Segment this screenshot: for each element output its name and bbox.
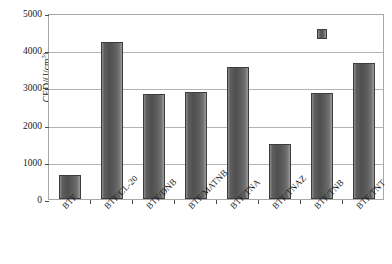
outlier-marker-icon: [317, 29, 327, 39]
y-axis-tick-label: 3000: [2, 83, 42, 93]
y-axis-tick-mark: [45, 52, 49, 53]
x-axis-tick-mark: [216, 200, 217, 204]
y-axis-tick-label: 4000: [2, 46, 42, 56]
y-axis-tick-mark: [45, 89, 49, 90]
bar-chart-figure: CED/(J/cm3) 010002000300040005000BTFBTF/…: [0, 0, 392, 264]
bar: [353, 63, 375, 199]
bar: [311, 93, 333, 199]
y-axis-tick-mark: [45, 15, 49, 16]
bar: [185, 92, 207, 200]
x-axis-tick-mark: [132, 200, 133, 204]
y-axis-tick-label: 0: [2, 195, 42, 205]
y-axis-tick-mark: [45, 127, 49, 128]
y-axis-tick-label: 5000: [2, 9, 42, 19]
y-axis-tick-label: 2000: [2, 121, 42, 131]
x-axis-tick-mark: [342, 200, 343, 204]
bar: [143, 94, 165, 199]
bar: [101, 42, 123, 199]
y-axis-tick-mark: [45, 164, 49, 165]
gridline: [49, 52, 383, 53]
x-axis-tick-mark: [90, 200, 91, 204]
gridline: [49, 89, 383, 90]
y-axis-tick-label: 1000: [2, 158, 42, 168]
y-axis-tick-mark: [45, 201, 49, 202]
x-axis-tick-mark: [300, 200, 301, 204]
x-axis-tick-mark: [258, 200, 259, 204]
x-axis-tick-mark: [174, 200, 175, 204]
bar: [227, 67, 249, 199]
